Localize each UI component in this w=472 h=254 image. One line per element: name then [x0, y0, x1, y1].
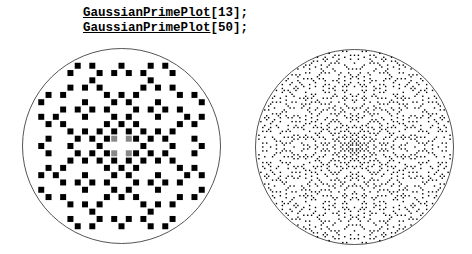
- gaussian-prime-point: [436, 121, 437, 122]
- gaussian-prime-point: [97, 158, 103, 164]
- gaussian-prime-point: [282, 111, 283, 112]
- gaussian-prime-point: [350, 199, 351, 200]
- function-link[interactable]: GaussianPrimePlot: [83, 21, 211, 35]
- gaussian-prime-point: [282, 131, 283, 132]
- gaussian-prime-point: [338, 133, 339, 134]
- gaussian-prime-point: [305, 178, 306, 179]
- gaussian-prime-point: [432, 203, 433, 204]
- gaussian-prime-point: [367, 146, 368, 147]
- gaussian-prime-point: [340, 107, 341, 108]
- gaussian-prime-point: [362, 117, 363, 118]
- gaussian-prime-point: [352, 193, 353, 194]
- gaussian-prime-point: [391, 76, 392, 77]
- gaussian-prime-point: [356, 135, 357, 136]
- gaussian-prime-point: [307, 137, 308, 138]
- gaussian-prime-point: [362, 137, 363, 138]
- gaussian-prime-point: [397, 113, 398, 114]
- gaussian-prime-point: [332, 205, 333, 206]
- function-link[interactable]: GaussianPrimePlot: [83, 6, 211, 20]
- gaussian-prime-point: [412, 203, 413, 204]
- gaussian-prime-point: [403, 139, 404, 140]
- gaussian-prime-point: [276, 125, 277, 126]
- gaussian-prime-point: [278, 115, 279, 116]
- gaussian-prime-point: [309, 185, 310, 186]
- gaussian-prime-point: [342, 109, 343, 110]
- gaussian-prime-point: [399, 88, 400, 89]
- gaussian-prime-point: [389, 78, 390, 79]
- gaussian-prime-point: [377, 113, 378, 114]
- gaussian-prime-point: [358, 78, 359, 79]
- gaussian-prime-point: [126, 172, 132, 178]
- gaussian-prime-point: [389, 191, 390, 192]
- gaussian-prime-point: [332, 80, 333, 81]
- gaussian-prime-point: [325, 174, 326, 175]
- gaussian-prime-point: [280, 191, 281, 192]
- gaussian-prime-point: [258, 158, 259, 159]
- gaussian-prime-point: [297, 115, 298, 116]
- input-line-1[interactable]: GaussianPrimePlot[13];: [83, 6, 248, 21]
- gaussian-prime-point: [408, 137, 409, 138]
- gaussian-prime-point: [403, 119, 404, 120]
- gaussian-prime-point: [379, 64, 380, 65]
- gaussian-prime-point: [317, 174, 318, 175]
- gaussian-prime-point: [424, 148, 425, 149]
- gaussian-prime-point: [328, 142, 329, 143]
- gaussian-prime-point: [148, 179, 154, 185]
- gaussian-prime-point: [330, 195, 331, 196]
- gaussian-prime-point: [422, 193, 423, 194]
- gaussian-prime-point: [412, 218, 413, 219]
- gaussian-prime-point: [140, 128, 146, 134]
- gaussian-prime-point: [385, 222, 386, 223]
- gaussian-prime-point: [383, 201, 384, 202]
- gaussian-prime-point: [315, 148, 316, 149]
- gaussian-prime-point: [356, 142, 357, 143]
- gaussian-prime-point: [436, 195, 437, 196]
- gaussian-prime-point: [358, 234, 359, 235]
- gaussian-prime-point: [367, 127, 368, 128]
- gaussian-prime-point: [385, 203, 386, 204]
- gaussian-prime-point: [356, 119, 357, 120]
- gaussian-prime-point: [412, 207, 413, 208]
- gaussian-prime-point: [399, 162, 400, 163]
- gaussian-prime-point: [323, 183, 324, 184]
- gaussian-prime-point: [354, 62, 355, 63]
- gaussian-prime-point: [299, 98, 300, 99]
- gaussian-prime-point: [348, 84, 349, 85]
- gaussian-prime-point: [293, 96, 294, 97]
- gaussian-prime-point: [82, 158, 88, 164]
- gaussian-prime-point: [338, 62, 339, 63]
- gaussian-prime-point: [360, 220, 361, 221]
- gaussian-prime-point: [397, 172, 398, 173]
- gaussian-prime-point: [440, 164, 441, 165]
- gaussian-prime-point: [317, 76, 318, 77]
- gaussian-prime-point: [266, 142, 267, 143]
- gaussian-prime-point: [321, 166, 322, 167]
- gaussian-prime-point: [369, 82, 370, 83]
- gaussian-prime-point: [426, 142, 427, 143]
- gaussian-prime-point: [266, 174, 267, 175]
- gaussian-prime-point: [391, 127, 392, 128]
- gaussian-prime-point: [326, 183, 327, 184]
- gaussian-prime-point: [356, 139, 357, 140]
- gaussian-prime-point: [371, 197, 372, 198]
- gaussian-prime-point: [332, 139, 333, 140]
- gaussian-prime-point: [387, 111, 388, 112]
- gaussian-prime-point: [293, 115, 294, 116]
- gaussian-prime-point: [291, 156, 292, 157]
- gaussian-prime-point: [428, 133, 429, 134]
- gaussian-prime-point: [422, 150, 423, 151]
- gaussian-prime-point: [350, 152, 351, 153]
- gaussian-prime-point: [348, 146, 349, 147]
- gaussian-prime-point: [60, 165, 66, 171]
- gaussian-prime-point: [305, 139, 306, 140]
- input-line-2[interactable]: GaussianPrimePlot[50];: [83, 21, 248, 36]
- gaussian-prime-point: [323, 78, 324, 79]
- gaussian-prime-point: [309, 88, 310, 89]
- gaussian-prime-point: [387, 64, 388, 65]
- gaussian-prime-point: [438, 170, 439, 171]
- gaussian-prime-point: [414, 88, 415, 89]
- gaussian-prime-point: [428, 195, 429, 196]
- gaussian-prime-point: [346, 86, 347, 87]
- gaussian-prime-point: [280, 179, 281, 180]
- gaussian-prime-point: [397, 230, 398, 231]
